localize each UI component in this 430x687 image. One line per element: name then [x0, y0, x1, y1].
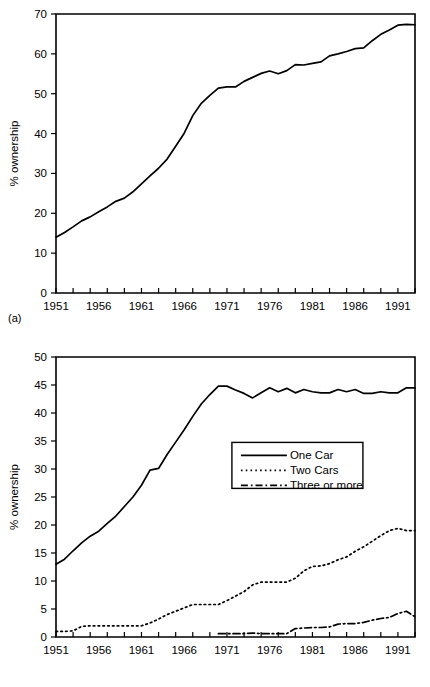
y-tick-label: 30: [34, 463, 47, 475]
plot-frame: [56, 14, 415, 293]
figure-car-ownership: 0102030405060701951195619611966197119761…: [0, 0, 430, 687]
x-tick-label: 1981: [300, 644, 326, 656]
x-tick-label: 1951: [43, 300, 69, 312]
y-tick-label: 0: [41, 287, 47, 299]
legend-label: Two Cars: [290, 464, 339, 476]
x-tick-label: 1966: [171, 644, 197, 656]
plot-frame: [56, 357, 415, 637]
y-tick-label: 40: [34, 407, 47, 419]
x-tick-label: 1971: [214, 644, 240, 656]
x-tick-label: 1991: [385, 644, 411, 656]
x-tick-label: 1986: [342, 644, 368, 656]
x-tick-label: 1956: [86, 300, 112, 312]
y-tick-label: 5: [41, 603, 47, 615]
x-tick-label: 1966: [171, 300, 197, 312]
x-tick-label: 1991: [385, 300, 411, 312]
y-tick-label: 10: [34, 247, 47, 259]
series-line-household-car-ownership: [56, 24, 415, 237]
y-tick-label: 30: [34, 167, 47, 179]
y-tick-label: 15: [34, 547, 47, 559]
y-tick-label: 0: [41, 631, 47, 643]
chart-a-canvas: 0102030405060701951195619611966197119761…: [0, 0, 430, 340]
panel-a-label: (a): [8, 312, 21, 324]
x-tick-label: 1986: [342, 300, 368, 312]
y-tick-label: 20: [34, 519, 47, 531]
y-tick-label: 25: [34, 491, 47, 503]
series-line-two-cars: [56, 528, 415, 631]
y-tick-label: 10: [34, 575, 47, 587]
legend-label: Three or more: [290, 479, 363, 491]
y-axis-title: % ownership: [8, 464, 20, 530]
x-tick-label: 1961: [129, 644, 155, 656]
y-tick-label: 40: [34, 128, 47, 140]
x-tick-label: 1951: [43, 644, 69, 656]
chart-panel-a: 0102030405060701951195619611966197119761…: [0, 0, 430, 340]
y-tick-label: 60: [34, 48, 47, 60]
y-tick-label: 20: [34, 207, 47, 219]
x-tick-label: 1976: [257, 644, 283, 656]
y-tick-label: 35: [34, 435, 47, 447]
y-tick-label: 70: [34, 8, 47, 20]
x-tick-label: 1971: [214, 300, 240, 312]
y-axis-title: % ownership: [8, 121, 20, 187]
x-tick-label: 1956: [86, 644, 112, 656]
x-tick-label: 1981: [300, 300, 326, 312]
x-tick-label: 1961: [129, 300, 155, 312]
y-tick-label: 50: [34, 351, 47, 363]
y-tick-label: 50: [34, 88, 47, 100]
y-tick-label: 45: [34, 379, 47, 391]
series-line-three-or-more: [218, 611, 415, 633]
chart-b-canvas: 0510152025303540455019511956196119661971…: [0, 340, 430, 687]
chart-panel-b: 0510152025303540455019511956196119661971…: [0, 340, 430, 687]
x-tick-label: 1976: [257, 300, 283, 312]
legend-label: One Car: [290, 449, 334, 461]
